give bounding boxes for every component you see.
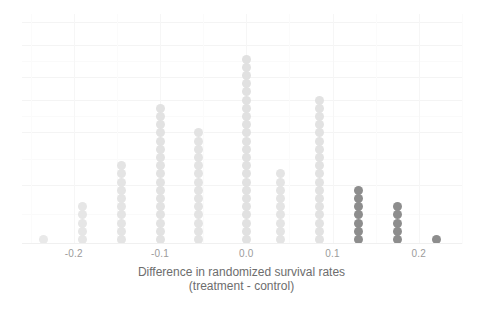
data-point-dot	[315, 145, 324, 154]
x-tick-label: 0.0	[239, 248, 254, 259]
gridline-vertical	[333, 14, 334, 244]
data-point-dot	[242, 137, 251, 146]
data-point-dot	[276, 210, 285, 219]
data-point-dot	[156, 227, 165, 236]
data-point-dot	[242, 87, 251, 96]
data-point-dot	[242, 202, 251, 211]
data-point-dot	[117, 202, 126, 211]
data-point-dot	[276, 178, 285, 187]
data-point-dot	[242, 161, 251, 170]
plot-panel	[22, 14, 462, 244]
data-point-dot	[194, 137, 203, 146]
dot-column	[194, 127, 203, 244]
data-point-dot	[315, 112, 324, 121]
data-point-dot	[242, 169, 251, 178]
x-axis-tick-labels: -0.2-0.10.00.10.2	[22, 248, 462, 262]
data-point-dot	[242, 63, 251, 72]
dot-column	[315, 94, 324, 244]
data-point-dot	[242, 79, 251, 88]
data-point-dot	[156, 137, 165, 146]
data-point-dot	[194, 178, 203, 187]
data-point-dot	[194, 161, 203, 170]
data-point-dot	[194, 210, 203, 219]
data-point-dot	[156, 104, 165, 113]
data-point-dot	[354, 227, 363, 236]
data-point-dot	[315, 128, 324, 137]
dot-column	[117, 160, 126, 244]
data-point-dot	[156, 178, 165, 187]
data-point-dot	[242, 153, 251, 162]
data-point-dot	[242, 210, 251, 219]
dot-column	[156, 103, 165, 244]
dot-column	[78, 201, 87, 244]
data-point-dot	[315, 161, 324, 170]
data-point-dot	[78, 210, 87, 219]
data-point-dot	[393, 227, 402, 236]
data-point-dot	[117, 186, 126, 195]
data-point-dot	[117, 227, 126, 236]
data-point-dot	[194, 227, 203, 236]
x-axis-title-line-2: (treatment - control)	[0, 279, 483, 293]
data-point-dot	[78, 227, 87, 236]
data-point-dot	[156, 219, 165, 228]
data-point-dot	[156, 153, 165, 162]
data-point-dot	[117, 161, 126, 170]
data-point-dot	[78, 202, 87, 211]
data-point-dot	[315, 96, 324, 105]
data-point-dot	[242, 128, 251, 137]
gridline-vertical-minor	[376, 14, 377, 244]
gridline-horizontal	[22, 22, 462, 23]
data-point-dot	[276, 194, 285, 203]
dot-column	[276, 168, 285, 244]
gridline-vertical	[419, 14, 420, 244]
data-point-dot	[117, 210, 126, 219]
data-point-dot	[315, 210, 324, 219]
data-point-dot	[194, 186, 203, 195]
data-point-dot	[315, 202, 324, 211]
data-point-dot	[354, 186, 363, 195]
x-axis-line	[22, 243, 462, 244]
data-point-dot	[315, 178, 324, 187]
data-point-dot	[354, 194, 363, 203]
data-point-dot	[156, 194, 165, 203]
data-point-dot	[276, 169, 285, 178]
data-point-dot	[315, 186, 324, 195]
dot-plot-figure: -0.2-0.10.00.10.2 Difference in randomiz…	[0, 0, 483, 311]
x-axis-title-line-1: Difference in randomized survival rates	[0, 265, 483, 279]
data-point-dot	[156, 161, 165, 170]
data-point-dot	[156, 120, 165, 129]
data-point-dot	[156, 145, 165, 154]
data-point-dot	[315, 120, 324, 129]
dot-column	[393, 201, 402, 244]
data-point-dot	[156, 186, 165, 195]
data-point-dot	[242, 178, 251, 187]
data-point-dot	[117, 178, 126, 187]
data-point-dot	[242, 186, 251, 195]
data-point-dot	[315, 169, 324, 178]
gridline-vertical-minor	[31, 14, 32, 244]
data-point-dot	[242, 219, 251, 228]
data-point-dot	[276, 219, 285, 228]
data-point-dot	[194, 145, 203, 154]
dot-column	[242, 53, 251, 244]
data-point-dot	[315, 194, 324, 203]
data-point-dot	[315, 153, 324, 162]
data-point-dot	[354, 210, 363, 219]
data-point-dot	[354, 219, 363, 228]
dot-column	[354, 185, 363, 244]
data-point-dot	[194, 202, 203, 211]
data-point-dot	[315, 137, 324, 146]
data-point-dot	[315, 104, 324, 113]
data-point-dot	[242, 120, 251, 129]
data-point-dot	[194, 153, 203, 162]
gridline-vertical-minor	[289, 14, 290, 244]
data-point-dot	[393, 219, 402, 228]
data-point-dot	[242, 104, 251, 113]
data-point-dot	[194, 169, 203, 178]
data-point-dot	[242, 71, 251, 80]
data-point-dot	[354, 202, 363, 211]
x-tick-label: 0.2	[412, 248, 427, 259]
x-tick-label: 0.1	[325, 248, 340, 259]
gridline-horizontal	[22, 45, 462, 46]
data-point-dot	[393, 202, 402, 211]
